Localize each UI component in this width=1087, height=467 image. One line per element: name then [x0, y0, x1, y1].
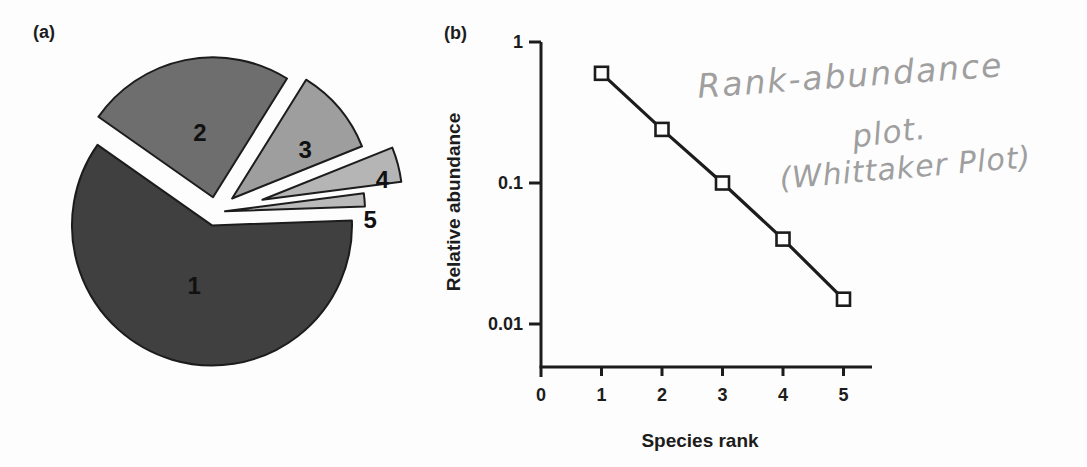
- y-tick-label-0.01: 0.01: [488, 314, 523, 334]
- figure-canvas: (a) (b) 12345 10.10.01012345 Relative ab…: [0, 0, 1087, 467]
- data-point-rank-2: [656, 123, 669, 136]
- x-tick-label-5: 5: [838, 385, 848, 405]
- pie-slice-label-2: 2: [193, 119, 206, 146]
- x-tick-label-3: 3: [717, 385, 727, 405]
- x-tick-label-2: 2: [657, 385, 667, 405]
- x-tick-label-4: 4: [778, 385, 788, 405]
- pie-slice-label-1: 1: [187, 272, 200, 299]
- y-axis-title: Relative abundance: [443, 113, 464, 291]
- pie-slice-label-3: 3: [299, 136, 312, 163]
- y-tick-label-1: 1: [513, 32, 523, 52]
- data-point-rank-4: [777, 233, 790, 246]
- pie-slice-label-4: 4: [376, 166, 390, 193]
- x-axis-title: Species rank: [641, 430, 759, 451]
- x-tick-label-0: 0: [536, 385, 546, 405]
- x-tick-label-1: 1: [596, 385, 606, 405]
- pie-chart: 12345: [0, 0, 430, 467]
- data-point-rank-3: [716, 177, 729, 190]
- data-point-rank-5: [837, 293, 850, 306]
- y-tick-label-0.1: 0.1: [498, 173, 523, 193]
- pie-slice-label-5: 5: [364, 206, 377, 233]
- data-point-rank-1: [595, 67, 608, 80]
